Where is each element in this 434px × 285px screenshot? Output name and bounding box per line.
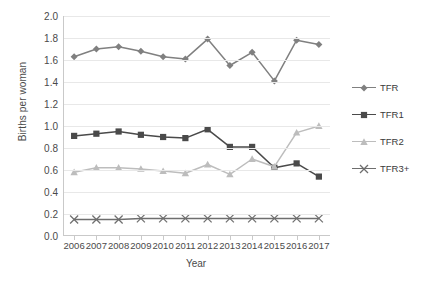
- data-point: [248, 155, 255, 162]
- line-chart: Births per woman 0.00.20.40.60.81.01.21.…: [0, 0, 434, 285]
- x-axis-title: Year: [0, 258, 434, 269]
- x-axis-tick-label: 2006: [64, 240, 85, 251]
- gridline: [63, 214, 330, 215]
- x-axis-line: [63, 235, 330, 236]
- y-axis-tick-label: 0.0: [28, 231, 58, 242]
- x-axis-tick-label: 2012: [197, 240, 218, 251]
- gridline: [63, 82, 330, 83]
- legend-label: TFR: [380, 82, 398, 93]
- series-tfr3plus: [70, 214, 323, 223]
- legend-marker-triangle-icon: [352, 136, 376, 148]
- y-axis-tick-label: 0.6: [28, 165, 58, 176]
- data-point: [137, 48, 144, 55]
- data-point: [71, 133, 77, 139]
- x-axis-tick-label: 2011: [175, 240, 195, 251]
- data-point: [116, 128, 122, 134]
- y-axis-tick-label: 0.4: [28, 187, 58, 198]
- data-point: [227, 144, 233, 150]
- legend-label: TFR1: [380, 109, 404, 120]
- data-point: [294, 160, 300, 166]
- data-point: [205, 126, 211, 132]
- gridline: [63, 126, 330, 127]
- legend-item-tfr[interactable]: TFR: [352, 74, 434, 101]
- data-point: [316, 174, 322, 180]
- x-axis-tick-label: 2008: [108, 240, 129, 251]
- x-axis-tick-label: 2013: [219, 240, 240, 251]
- data-point: [138, 132, 144, 138]
- y-axis-tick-label: 1.6: [28, 55, 58, 66]
- legend-item-tfr1[interactable]: TFR1: [352, 101, 434, 128]
- data-point: [182, 135, 188, 141]
- legend-label: TFR3+: [380, 163, 409, 174]
- legend-marker-square-icon: [352, 109, 376, 121]
- y-axis-tick-label: 1.8: [28, 33, 58, 44]
- gridline: [63, 148, 330, 149]
- x-axis-tick-label: 2007: [86, 240, 107, 251]
- legend-label: TFR2: [380, 136, 404, 147]
- x-axis-title-text: Year: [186, 258, 206, 269]
- gridline: [63, 104, 330, 105]
- y-axis-tick-label: 1.0: [28, 121, 58, 132]
- y-axis-tick-label: 1.2: [28, 99, 58, 110]
- data-point: [315, 41, 322, 48]
- legend-item-tfr3plus[interactable]: TFR3+: [352, 155, 434, 182]
- x-axis-tick-labels: 2006200720082009201020112012201320142015…: [63, 240, 330, 258]
- y-axis-tick-label: 0.2: [28, 209, 58, 220]
- x-axis-tick-label: 2010: [153, 240, 174, 251]
- plot-area: [63, 16, 330, 236]
- gridline: [63, 60, 330, 61]
- data-point: [204, 161, 211, 168]
- y-axis-tick-label: 1.4: [28, 77, 58, 88]
- data-point: [93, 46, 100, 53]
- legend-marker-diamond-icon: [352, 82, 376, 94]
- legend: TFRTFR1TFR2TFR3+: [352, 74, 434, 182]
- x-axis-tick-label: 2017: [308, 240, 329, 251]
- data-point: [160, 134, 166, 140]
- data-point: [115, 43, 122, 50]
- gridline: [63, 170, 330, 171]
- data-point: [93, 131, 99, 137]
- data-point: [249, 144, 255, 150]
- gridline: [63, 192, 330, 193]
- x-axis-tick-label: 2015: [264, 240, 285, 251]
- y-axis-tick-label: 2.0: [28, 11, 58, 22]
- legend-marker-x-icon: [352, 163, 376, 175]
- y-axis-line: [63, 16, 64, 236]
- legend-item-tfr2[interactable]: TFR2: [352, 128, 434, 155]
- x-axis-tick-label: 2014: [242, 240, 263, 251]
- gridline: [63, 16, 330, 17]
- series-tfr1: [71, 126, 322, 180]
- y-axis-tick-labels: 0.00.20.40.60.81.01.21.41.61.82.0: [26, 0, 58, 285]
- series-line: [74, 218, 319, 219]
- x-axis-tick-label: 2016: [286, 240, 307, 251]
- y-axis-tick-label: 0.8: [28, 143, 58, 154]
- gridline: [63, 38, 330, 39]
- x-axis-tick-label: 2009: [130, 240, 151, 251]
